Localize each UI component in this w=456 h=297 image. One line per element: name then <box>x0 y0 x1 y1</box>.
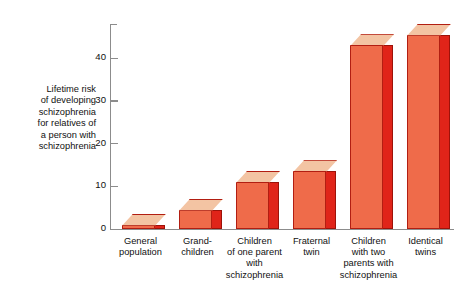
bar-front-face <box>350 45 383 229</box>
bar-3 <box>236 171 269 229</box>
bar-front-face <box>407 35 440 229</box>
y-tick-40 <box>111 58 118 59</box>
bar-front-face <box>179 210 212 229</box>
bar-1 <box>122 214 155 229</box>
y-tick-label-20: 20 <box>78 137 106 148</box>
bar-6 <box>407 24 440 229</box>
bar-side-face <box>325 171 336 229</box>
y-tick-20 <box>111 143 118 144</box>
y-tick-label-0: 0 <box>78 222 106 233</box>
y-tick-10 <box>111 186 118 187</box>
y-tick-0 <box>111 229 118 230</box>
bar-side-face <box>382 45 393 229</box>
bar-front-face <box>293 171 326 229</box>
category-label-6: Identical twins <box>386 236 456 258</box>
bar-4 <box>293 160 326 229</box>
bar-5 <box>350 34 383 229</box>
bar-side-face <box>211 210 222 229</box>
y-tick-label-10: 10 <box>78 179 106 190</box>
y-axis-top-cap <box>110 24 117 25</box>
x-axis-baseline <box>110 229 454 230</box>
bar-side-face <box>439 35 450 229</box>
chart-figure: Lifetime risk of developing schizophreni… <box>0 0 456 297</box>
bar-2 <box>179 199 212 229</box>
y-tick-label-40: 40 <box>78 51 106 62</box>
y-tick-30 <box>111 100 118 101</box>
bar-side-face <box>154 225 165 229</box>
bar-front-face <box>236 182 269 229</box>
y-axis-line <box>110 24 111 230</box>
y-tick-label-30: 30 <box>78 94 106 105</box>
bar-side-face <box>268 182 279 229</box>
